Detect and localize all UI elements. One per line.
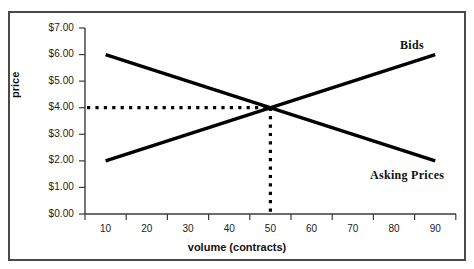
xtick-label-40: 40 bbox=[215, 223, 243, 234]
xtick-label-60: 60 bbox=[298, 223, 326, 234]
ytick-label-0: $0.00 bbox=[28, 208, 74, 219]
xtick-label-10: 10 bbox=[92, 223, 120, 234]
series-label-asking-prices: Asking Prices bbox=[370, 168, 444, 183]
y-axis-ticks bbox=[79, 28, 85, 214]
chart-plot-area: $7.00 $6.00 $5.00 $4.00 $3.00 $2.00 $1.0… bbox=[0, 0, 474, 269]
ytick-label-4: $4.00 bbox=[28, 101, 74, 112]
xtick-label-70: 70 bbox=[339, 223, 367, 234]
x-axis-ticks bbox=[85, 214, 456, 220]
xtick-label-90: 90 bbox=[421, 223, 449, 234]
ytick-label-3: $3.00 bbox=[28, 128, 74, 139]
ytick-label-5: $5.00 bbox=[28, 75, 74, 86]
x-axis-title: volume (contracts) bbox=[0, 241, 474, 253]
series-label-bids: Bids bbox=[400, 38, 424, 53]
ytick-label-6: $6.00 bbox=[28, 48, 74, 59]
y-axis-title: price bbox=[9, 72, 21, 98]
xtick-label-20: 20 bbox=[133, 223, 161, 234]
ytick-label-7: $7.00 bbox=[28, 22, 74, 33]
xtick-label-50: 50 bbox=[256, 223, 284, 234]
ytick-label-2: $2.00 bbox=[28, 154, 74, 165]
ytick-label-1: $1.00 bbox=[28, 181, 74, 192]
xtick-label-80: 80 bbox=[380, 223, 408, 234]
xtick-label-30: 30 bbox=[174, 223, 202, 234]
